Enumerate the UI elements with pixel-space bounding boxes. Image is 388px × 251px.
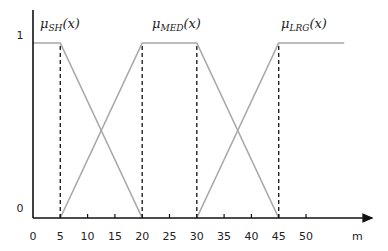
- function-label-2: μLRG(x): [281, 16, 327, 33]
- x-tick-label: 45: [272, 230, 286, 243]
- series-line-0: [33, 43, 142, 218]
- x-tick-label: 30: [190, 230, 204, 243]
- x-tick-label: 35: [217, 230, 231, 243]
- y-axis-ticks: 01: [17, 29, 24, 215]
- x-tick-label: 5: [57, 230, 64, 243]
- x-tick-label: 15: [108, 230, 122, 243]
- membership-function-chart: 05101520253035404550 01 m μSH(x)μMED(x)μ…: [0, 0, 388, 251]
- series-line-2: [197, 43, 344, 218]
- function-label-0: μSH(x): [40, 16, 80, 33]
- x-tick-label: 25: [163, 230, 177, 243]
- dashed-guide-lines: [60, 43, 278, 218]
- y-tick-label: 0: [17, 202, 24, 215]
- x-tick-label: 50: [299, 230, 313, 243]
- x-tick-label: 20: [135, 230, 149, 243]
- membership-curves: [33, 43, 344, 218]
- x-axis-label: m: [352, 230, 363, 243]
- x-tick-label: 0: [30, 230, 37, 243]
- x-tick-label: 40: [244, 230, 258, 243]
- y-tick-label: 1: [17, 29, 24, 42]
- series-line-1: [60, 43, 278, 218]
- function-labels: μSH(x)μMED(x)μLRG(x): [40, 16, 327, 33]
- function-label-1: μMED(x): [152, 16, 201, 33]
- x-tick-label: 10: [81, 230, 95, 243]
